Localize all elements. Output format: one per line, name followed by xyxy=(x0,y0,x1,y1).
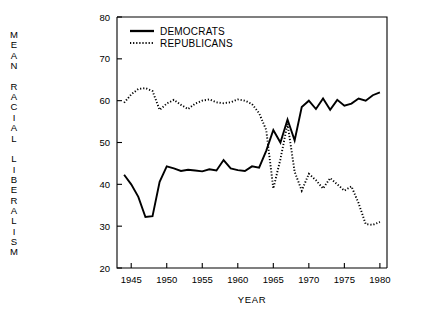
y-axis-title-letter: A xyxy=(11,91,18,102)
legend-label-republicans: REPUBLICANS xyxy=(160,38,233,49)
x-tick-label: 1950 xyxy=(156,274,177,285)
x-tick-label: 1945 xyxy=(121,274,142,285)
y-axis-title-letter: R xyxy=(11,195,18,206)
y-axis-title-letter: B xyxy=(11,174,17,185)
x-tick-label: 1970 xyxy=(298,274,319,285)
y-tick-label: 70 xyxy=(99,53,110,64)
x-tick-label: 1965 xyxy=(263,274,284,285)
y-axis-title-letter: I xyxy=(13,164,16,175)
axis-lines xyxy=(117,17,387,268)
y-axis-ticks: 20304050607080 xyxy=(99,12,122,274)
plot-series xyxy=(124,88,380,225)
x-tick-label: 1980 xyxy=(369,274,390,285)
x-tick-label: 1975 xyxy=(334,274,355,285)
y-axis-title-letter: A xyxy=(11,205,18,216)
y-tick-label: 60 xyxy=(99,95,110,106)
legend: DEMOCRATS REPUBLICANS xyxy=(130,26,233,49)
y-axis-title-letter: M xyxy=(10,29,18,40)
y-axis-title-letter: E xyxy=(11,184,17,195)
y-axis-title-letter: I xyxy=(13,226,16,237)
y-axis-title-letter: A xyxy=(11,50,18,61)
y-axis-title: MEANRACIALLIBERALISM xyxy=(10,29,18,257)
y-axis-title-letter: L xyxy=(11,153,16,164)
y-axis-title-letter: M xyxy=(10,246,18,257)
y-axis-title-letter: L xyxy=(11,215,16,226)
chart-figure: 20304050607080 1945195019551960196519701… xyxy=(0,0,431,319)
chart-svg: 20304050607080 1945195019551960196519701… xyxy=(0,0,431,319)
y-axis-title-letter: C xyxy=(11,101,18,112)
x-axis-title: YEAR xyxy=(238,294,266,305)
axis-frame-top-right xyxy=(117,17,387,268)
y-tick-label: 30 xyxy=(99,221,110,232)
y-axis-title-letter: S xyxy=(11,236,17,247)
y-axis-title-letter: L xyxy=(11,133,16,144)
y-tick-label: 50 xyxy=(99,137,110,148)
y-axis-title-letter: R xyxy=(11,81,18,92)
axes-frame xyxy=(117,17,387,268)
series-line-democrats xyxy=(124,92,380,217)
y-tick-label: 40 xyxy=(99,179,110,190)
x-tick-label: 1960 xyxy=(227,274,248,285)
y-axis-title-letter: I xyxy=(13,112,16,123)
x-axis-ticks: 19451950195519601965197019751980 xyxy=(121,263,391,285)
legend-label-democrats: DEMOCRATS xyxy=(160,26,225,37)
y-axis-title-letter: N xyxy=(11,60,18,71)
y-tick-label: 80 xyxy=(99,12,110,23)
x-tick-label: 1955 xyxy=(192,274,213,285)
y-tick-label: 20 xyxy=(99,263,110,274)
y-axis-title-letter: A xyxy=(11,122,18,133)
y-axis-title-letter: E xyxy=(11,39,17,50)
series-line-republicans xyxy=(124,88,380,225)
